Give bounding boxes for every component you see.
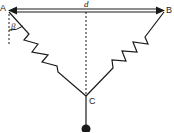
distance-arrow — [14, 9, 158, 12]
label-point-c: C — [89, 96, 96, 106]
spring-left — [9, 12, 86, 96]
label-point-b: B — [166, 5, 172, 15]
arrowhead-left-icon — [8, 7, 17, 15]
label-angle: β — [10, 21, 16, 31]
spring-right — [86, 12, 164, 96]
label-distance: d — [84, 0, 89, 9]
spring-pendulum-diagram: A B C d β — [0, 0, 174, 132]
pendulum-bob — [82, 125, 91, 133]
label-point-a: A — [0, 3, 6, 13]
